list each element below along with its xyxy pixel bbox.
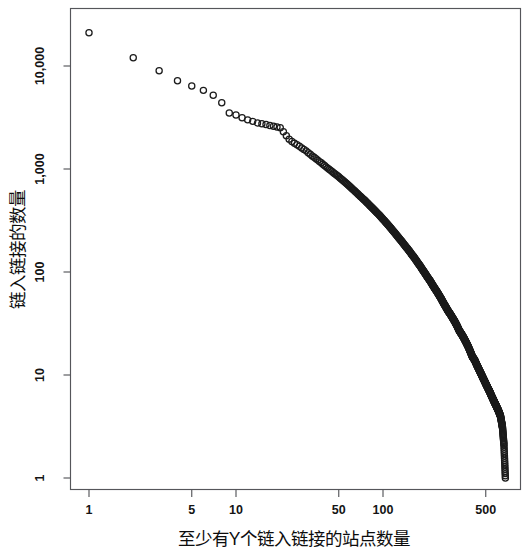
log-log-scatter-chart: 1101001,00010,000 151050100500 链入链接的数量 至… <box>0 0 528 550</box>
chart-canvas: 1101001,00010,000 151050100500 链入链接的数量 至… <box>0 0 528 550</box>
x-tick-label: 10 <box>229 503 243 517</box>
data-point <box>189 83 195 89</box>
x-tick-label: 5 <box>188 503 195 517</box>
data-point <box>86 30 92 36</box>
data-point <box>174 78 180 84</box>
plot-frame <box>71 9 521 490</box>
x-axis-title: 至少有Y个链入链接的站点数量 <box>178 529 411 549</box>
x-tick-label: 1 <box>86 503 93 517</box>
y-tick-label: 100 <box>33 262 47 283</box>
data-point <box>233 112 239 118</box>
y-axis-ticks: 1101001,00010,000 <box>33 47 71 482</box>
y-tick-label: 1,000 <box>33 153 47 184</box>
data-point <box>156 68 162 74</box>
x-tick-label: 50 <box>332 503 346 517</box>
y-tick-label: 10,000 <box>33 47 47 85</box>
plot-border <box>71 9 521 490</box>
data-point <box>210 92 216 98</box>
y-axis-title: 链入链接的数量 <box>8 190 28 309</box>
data-points <box>86 30 509 481</box>
x-tick-label: 500 <box>475 503 496 517</box>
data-point <box>226 110 232 116</box>
data-point <box>130 55 136 61</box>
y-tick-label: 10 <box>33 368 47 382</box>
x-axis-ticks: 151050100500 <box>86 490 497 518</box>
data-point <box>219 100 225 106</box>
data-point <box>200 87 206 93</box>
x-tick-label: 100 <box>373 503 394 517</box>
y-tick-label: 1 <box>33 474 47 481</box>
